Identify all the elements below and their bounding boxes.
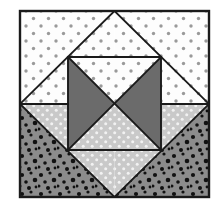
quilt-block-figure: [0, 0, 224, 206]
quilt-block-canvas: [0, 0, 224, 206]
